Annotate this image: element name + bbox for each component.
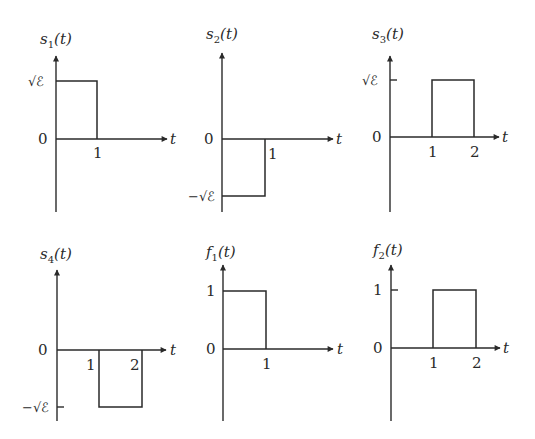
level-label: 1 xyxy=(206,282,216,300)
tick-label-1: 1 xyxy=(428,143,438,161)
t-axis-label: t xyxy=(337,340,344,358)
level-label: −√ℰ xyxy=(188,189,215,204)
waveform-s3 xyxy=(432,80,474,137)
tick-label-1: 1 xyxy=(93,144,103,162)
level-label: √ℰ xyxy=(28,74,44,89)
waveform-f2 xyxy=(433,290,476,348)
panel-title-s1: s1(t) xyxy=(40,30,72,50)
zero-label: 0 xyxy=(38,130,48,148)
level-label: √ℰ xyxy=(362,73,378,88)
panel-s1: s1(t) √ℰ 0 1 t xyxy=(28,30,177,212)
level-label: 1 xyxy=(373,281,383,299)
panel-title-s3: s3(t) xyxy=(372,25,404,45)
tick-label-1: 1 xyxy=(86,356,96,374)
signal-figure: s1(t) √ℰ 0 1 t s2(t) −√ℰ 0 1 t s3(t) √ℰ … xyxy=(0,0,535,439)
zero-label: 0 xyxy=(373,339,383,357)
t-axis-label: t xyxy=(502,128,509,146)
t-axis-label: t xyxy=(503,339,510,357)
panel-title-s4: s4(t) xyxy=(40,245,72,265)
panel-f1: f1(t) 1 0 1 t xyxy=(205,243,344,421)
zero-label: 0 xyxy=(372,128,382,146)
panel-s2: s2(t) −√ℰ 0 1 t xyxy=(188,25,343,212)
waveform-s1 xyxy=(56,81,97,139)
zero-label: 0 xyxy=(204,130,214,148)
tick-label-1: 1 xyxy=(262,355,272,373)
tick-label-2: 2 xyxy=(130,356,140,374)
panel-s3: s3(t) √ℰ 0 1 2 t xyxy=(362,25,509,212)
zero-label: 0 xyxy=(206,340,216,358)
waveform-f1 xyxy=(223,291,266,349)
t-axis-label: t xyxy=(336,130,343,148)
tick-label-2: 2 xyxy=(470,143,480,161)
panel-f2: f2(t) 1 0 1 2 t xyxy=(372,241,510,421)
tick-label-2: 2 xyxy=(472,354,482,372)
panel-title-f1: f1(t) xyxy=(205,243,236,263)
panel-title-s2: s2(t) xyxy=(206,25,238,45)
tick-label-1: 1 xyxy=(268,145,278,163)
panel-s4: s4(t) −√ℰ 0 1 2 t xyxy=(22,245,177,421)
panel-title-f2: f2(t) xyxy=(372,241,403,261)
t-axis-label: t xyxy=(170,130,177,148)
level-label: −√ℰ xyxy=(22,400,49,415)
tick-label-1: 1 xyxy=(429,354,439,372)
waveform-s2 xyxy=(222,139,265,196)
zero-label: 0 xyxy=(38,341,48,359)
t-axis-label: t xyxy=(170,341,177,359)
